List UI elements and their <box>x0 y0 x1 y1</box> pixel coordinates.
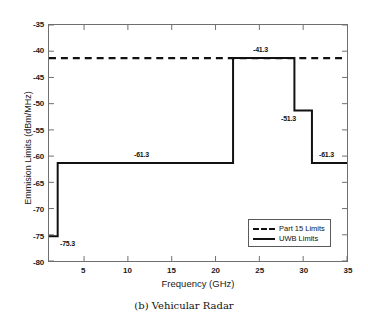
y-tick-label: -35 <box>33 20 44 29</box>
x-tick-label: 30 <box>299 266 308 275</box>
annotation-low-band-level: -61.3 <box>134 151 149 158</box>
y-tick-label: -65 <box>33 178 44 187</box>
solid-line-swatch-icon <box>253 234 275 242</box>
legend-entry-part-15: Part 15 Limits <box>253 223 325 233</box>
y-tick-label: -70 <box>33 205 44 214</box>
annotation-peak-level: -41.3 <box>253 46 268 53</box>
y-tick-label: -80 <box>33 258 44 267</box>
x-tick-label: 5 <box>81 266 85 275</box>
annotation-mid-step-level: -51.3 <box>281 115 296 122</box>
x-tick-label: 20 <box>211 266 220 275</box>
y-tick-label: -75 <box>33 231 44 240</box>
x-tick-label: 10 <box>123 266 132 275</box>
annotation-start-level: -75.3 <box>60 240 75 247</box>
legend-label: Part 15 Limits <box>279 224 325 233</box>
x-tick-label: 35 <box>343 266 352 275</box>
y-axis-title: Emmision Limits (dBm/MHz) <box>23 28 33 268</box>
y-tick-label: -50 <box>33 99 44 108</box>
legend-label: UWB Limits <box>279 234 318 243</box>
annotation-upper-band-level: -61.3 <box>319 151 334 158</box>
series-uwb-limits <box>49 58 347 236</box>
x-axis-title: Frequency (GHz) <box>48 278 348 289</box>
legend-entry-uwb: UWB Limits <box>253 233 325 243</box>
figure-vehicular-radar: -35 -40 -45 -50 -55 -60 -65 -70 -75 -80 … <box>0 0 368 326</box>
y-tick-label: -45 <box>33 72 44 81</box>
x-tick-label: 15 <box>167 266 176 275</box>
dashed-line-swatch-icon <box>253 224 275 232</box>
x-tick-label: 25 <box>255 266 264 275</box>
legend: Part 15 Limits UWB Limits <box>248 219 331 247</box>
figure-caption: (b) Vehicular Radar <box>0 300 368 311</box>
y-tick-label: -60 <box>33 152 44 161</box>
y-tick-label: -55 <box>33 125 44 134</box>
y-tick-label: -40 <box>33 46 44 55</box>
